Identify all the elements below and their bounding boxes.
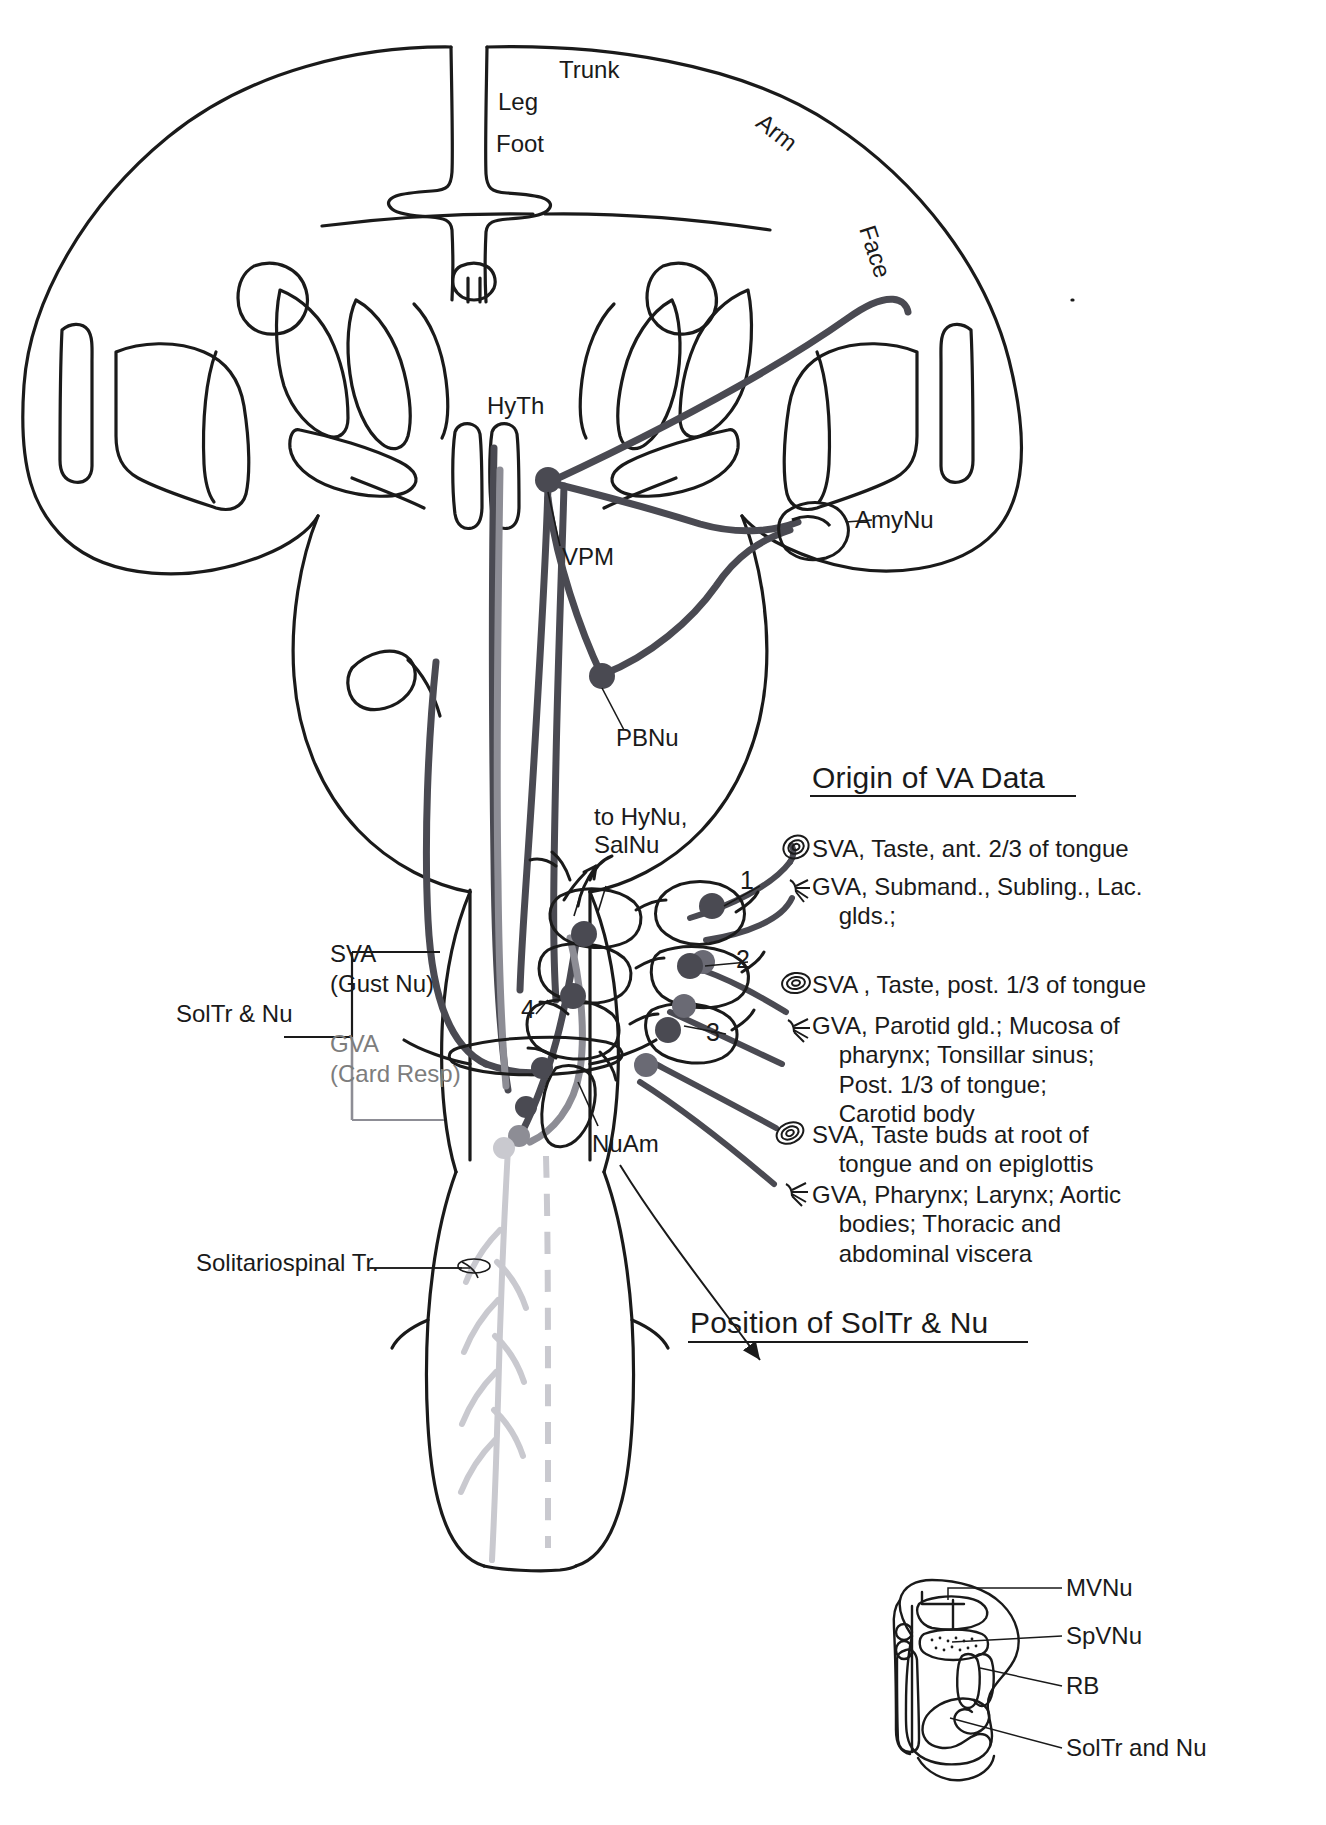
free-nerve-ending-icon [786,1183,808,1206]
legend-icons [773,831,813,1206]
label-vpm: VPM [562,543,614,571]
legend-title-underline [810,795,1076,797]
inset-brainstem-section [894,1580,1019,1780]
taste-bud-icon [779,831,812,863]
legend-entry-2: SVA , Taste, post. 1/3 of tongue [812,970,1146,999]
taste-bud-icon [773,1118,807,1148]
legend-entry-1: GVA, Submand., Subling., Lac. glds.; [812,872,1142,931]
legend-entry-4: SVA, Taste buds at root of tongue and on… [812,1120,1094,1179]
inset-title-underline [688,1341,1028,1343]
free-nerve-ending-icon [788,1019,810,1042]
cortex-label-leg: Leg [498,88,538,116]
legend-entry-5: GVA, Pharynx; Larynx; Aortic bodies; Tho… [812,1180,1121,1268]
bracket-row-1-sub: (Card Resp) [330,1060,461,1088]
solitariospinal-dashed [546,1156,548,1548]
ganglion-number-2: 2 [736,945,750,975]
ganglion-number-1: 1 [740,866,754,896]
inset-label-spvnu: SpVNu [1066,1622,1142,1650]
label-amynu: AmyNu [855,506,934,534]
bracket-row-0-main: SVA [330,940,376,968]
solitariospinal-tract [461,1148,526,1560]
inset-label-soltr-and-nu: SolTr and Nu [1066,1734,1207,1762]
legend-entry-0: SVA, Taste, ant. 2/3 of tongue [812,834,1129,863]
label-pbnu: PBNu [616,724,679,752]
legend-title: Origin of VA Data [812,760,1045,795]
cortex-label-trunk: Trunk [559,56,619,84]
label-solitariospinal-tract: Solitariospinal Tr. [196,1249,379,1277]
bracket-row-0-sub: (Gust Nu) [330,970,434,998]
taste-bud-icon [781,971,812,995]
label-to-hynu-salnu: to HyNu, SalNu [594,803,687,860]
inset-label-mvnu: MVNu [1066,1574,1133,1602]
figure-canvas: Trunk Leg Foot Arm Face HyTh VPM AmyNu P… [0,0,1326,1825]
ganglion-number-3: 3 [706,1018,720,1048]
label-nuam: NuAm [592,1130,659,1158]
legend-entry-3: GVA, Parotid gld.; Mucosa of pharynx; To… [812,1011,1120,1128]
label-hyth: HyTh [487,392,544,420]
inset-leader-lines [948,1588,1062,1748]
label-soltr-and-nu: SolTr & Nu [176,1000,292,1028]
bracket-row-1-main: GVA [330,1030,379,1058]
inset-title: Position of SolTr & Nu [690,1305,988,1340]
inset-label-rb: RB [1066,1672,1099,1700]
ganglion-number-4: 4 [521,995,535,1025]
cortex-label-foot: Foot [496,130,544,158]
